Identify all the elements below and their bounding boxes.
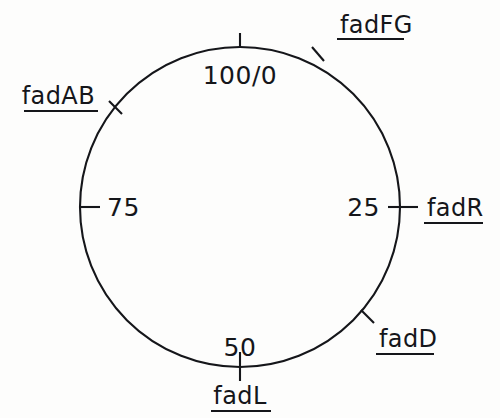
gene-label-fadL: fadL xyxy=(213,382,267,410)
gene-label-fadFG: fadFG xyxy=(340,11,413,39)
gene-label-fadR: fadR xyxy=(427,194,484,222)
scale-label-50: 50 xyxy=(224,333,257,362)
tick-mark-fadFG xyxy=(312,47,324,61)
gene-label-fadD: fadD xyxy=(379,325,437,353)
tick-mark-fadD xyxy=(361,310,374,323)
circular-map-svg: 100/0 25 50 75 fadFG fadR fadD fadL fadA… xyxy=(0,0,500,418)
gene-label-fadAB: fadAB xyxy=(22,82,95,110)
figure-canvas: 100/0 25 50 75 fadFG fadR fadD fadL fadA… xyxy=(0,0,500,418)
scale-label-100-0: 100/0 xyxy=(203,61,278,90)
scale-label-25: 25 xyxy=(347,193,380,222)
scale-label-75: 75 xyxy=(107,193,140,222)
